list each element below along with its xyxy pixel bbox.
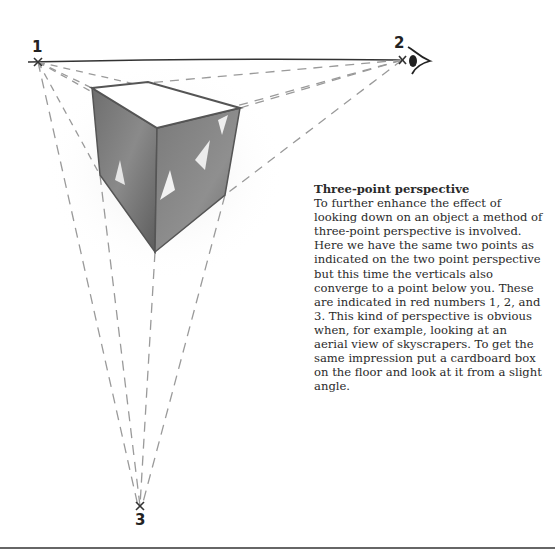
caption-title: Three-point perspective	[314, 182, 544, 196]
caption: Three-point perspective To further enhan…	[314, 182, 544, 393]
horizon-line	[28, 59, 400, 62]
vanishing-point-label-2: 2	[394, 34, 404, 52]
caption-body: To further enhance the effect of looking…	[314, 196, 544, 393]
perspective-illustration: 1 2 3 Three-point perspective To further…	[0, 0, 555, 552]
vanishing-point-label-1: 1	[32, 38, 42, 56]
vanishing-point-label-3: 3	[135, 511, 145, 529]
page-divider	[0, 547, 555, 549]
eye-icon	[408, 47, 430, 74]
